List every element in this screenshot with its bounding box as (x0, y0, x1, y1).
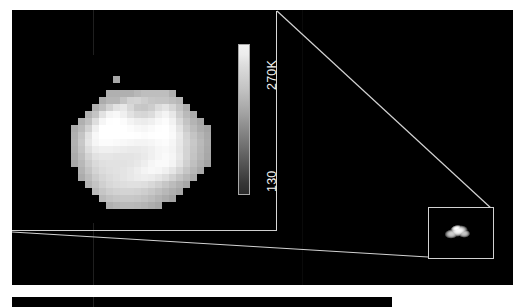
figure-root: 270K 130 (0, 0, 513, 307)
leader-line-upper (277, 11, 492, 209)
main-image-panel: 270K 130 (12, 10, 513, 285)
second-panel-seam (93, 297, 94, 307)
nucleus-image (429, 208, 493, 258)
leader-line-lower (12, 232, 428, 257)
second-image-panel (12, 297, 392, 307)
context-inset-box (428, 207, 494, 259)
